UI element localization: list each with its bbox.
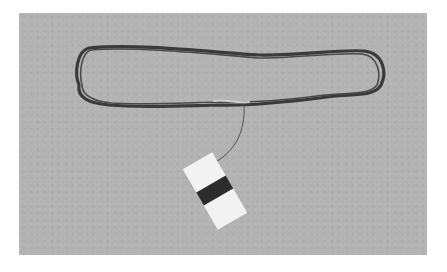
- thread-loop-illustration: [19, 13, 427, 255]
- photograph: [19, 13, 427, 255]
- thread-strand: [214, 105, 244, 163]
- winding-card: [183, 152, 247, 230]
- thread-loop: [77, 47, 384, 107]
